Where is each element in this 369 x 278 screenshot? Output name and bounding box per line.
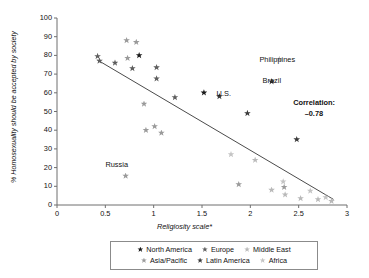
legend-item-label: Middle East <box>253 245 291 254</box>
data-point <box>322 194 329 201</box>
data-point <box>122 173 129 180</box>
legend-row: North AmericaEuropeMiddle East <box>113 244 315 255</box>
x-axis-tick-label: 0.5 <box>90 210 120 217</box>
legend-item[interactable]: Latin America <box>197 256 250 265</box>
legend-item[interactable]: Asia/Pacific <box>141 256 187 265</box>
data-point <box>293 136 300 143</box>
y-axis-tick-label: 0 <box>28 201 52 208</box>
data-point <box>228 151 235 158</box>
legend-item[interactable]: Middle East <box>244 245 291 254</box>
data-point <box>280 178 287 185</box>
russia-label: Russia <box>105 161 128 169</box>
y-axis-tick-label: 60 <box>28 89 52 96</box>
legend-marker-icon <box>137 247 143 253</box>
data-point <box>153 75 160 82</box>
data-point <box>136 52 143 59</box>
legend-item-label: North America <box>146 245 192 254</box>
x-axis-tick-label: 1.5 <box>187 210 217 217</box>
data-point <box>235 181 242 188</box>
x-axis-tick-label: 0 <box>42 210 72 217</box>
correlation-label: Correlation: <box>293 99 335 107</box>
legend-marker-icon <box>260 258 266 264</box>
y-axis-tick-label: 90 <box>28 33 52 40</box>
y-axis-tick-label: 20 <box>28 164 52 171</box>
data-point <box>158 130 165 137</box>
x-axis-tick-label: 2.5 <box>284 210 314 217</box>
x-axis-tick-label: 1 <box>139 210 169 217</box>
data-point <box>153 64 160 71</box>
data-point <box>268 187 275 194</box>
data-point <box>123 37 130 44</box>
data-point <box>96 58 103 65</box>
data-point <box>282 191 289 198</box>
legend-marker-icon <box>202 247 208 253</box>
y-axis-tick-label: 30 <box>28 145 52 152</box>
y-axis-tick-label: 50 <box>28 108 52 115</box>
legend-item-label: Asia/Pacific <box>150 256 187 265</box>
x-axis-tick-label: 3 <box>332 210 362 217</box>
us-label: U.S. <box>217 90 231 98</box>
data-point <box>141 101 148 108</box>
y-axis-tick-label: 10 <box>28 182 52 189</box>
data-point <box>200 89 207 96</box>
brazil-label: Brazil <box>263 77 281 85</box>
legend-row: Asia/PacificLatin AmericaAfrica <box>113 255 315 266</box>
y-axis-tick-label: 40 <box>28 126 52 133</box>
legend-marker-icon <box>197 258 203 264</box>
chart-legend: North AmericaEuropeMiddle EastAsia/Pacif… <box>110 241 318 270</box>
legend-item-label: Latin America <box>206 256 250 265</box>
legend-item[interactable]: Africa <box>260 256 287 265</box>
legend-item[interactable]: North America <box>137 245 192 254</box>
legend-item-label: Europe <box>211 245 234 254</box>
data-point <box>307 187 314 194</box>
data-point <box>244 110 251 117</box>
scatter-chart-figure: % Homosexuality should be accepted by so… <box>0 0 369 278</box>
legend-marker-icon <box>141 258 147 264</box>
x-axis-tick-label: 2 <box>235 210 265 217</box>
correlation-value: –0.78 <box>305 110 324 118</box>
legend-marker-icon <box>244 247 250 253</box>
data-point <box>297 195 304 202</box>
y-axis-tick-label: 80 <box>28 51 52 58</box>
y-axis-tick-label: 70 <box>28 70 52 77</box>
legend-item[interactable]: Europe <box>202 245 234 254</box>
data-point <box>129 65 136 72</box>
data-point <box>252 157 259 164</box>
data-point <box>171 94 178 101</box>
data-point <box>142 127 149 134</box>
y-axis-tick-label: 100 <box>28 14 52 21</box>
philippines-label: Philippines <box>259 56 295 64</box>
data-point <box>112 59 119 66</box>
data-point <box>133 39 140 46</box>
plot-area <box>57 18 347 205</box>
data-point <box>124 55 131 62</box>
legend-item-label: Africa <box>269 256 287 265</box>
data-point <box>315 196 322 203</box>
